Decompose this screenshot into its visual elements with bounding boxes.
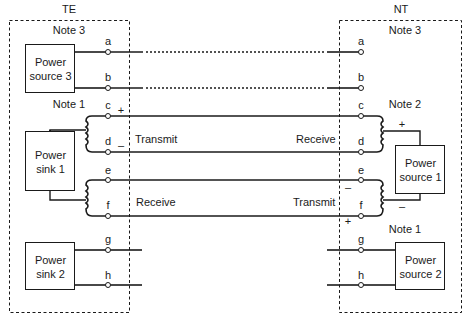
te-label-e: e <box>105 165 111 176</box>
te-title: TE <box>62 4 76 15</box>
nt-terminal-c <box>359 114 364 119</box>
te-terminal-d <box>106 150 111 155</box>
te-terminal-a <box>106 50 111 55</box>
nt-e-minus: – <box>345 182 351 193</box>
power-source-2-label: Power source 2 <box>396 243 445 290</box>
te-terminal-h <box>106 283 111 288</box>
nt-source1-minus: – <box>399 201 405 212</box>
power-sink-1-label: Power sink 1 <box>26 132 75 191</box>
te-note-1: Note 1 <box>53 99 85 110</box>
te-terminal-b <box>106 86 111 91</box>
te-label-a: a <box>105 36 111 47</box>
te-note-3: Note 3 <box>53 25 85 36</box>
nt-label-a: a <box>358 36 364 47</box>
nt-terminal-e <box>359 178 364 183</box>
te-terminal-c <box>106 114 111 119</box>
nt-title: NT <box>394 4 409 15</box>
nt-label-c: c <box>358 100 364 111</box>
te-label-d: d <box>105 136 111 147</box>
power-source-1-label: Power source 1 <box>396 146 445 194</box>
te-c-plus: + <box>118 105 124 116</box>
nt-terminal-h <box>359 283 364 288</box>
te-terminal-e <box>106 178 111 183</box>
power-source-3-label: Power source 3 <box>26 45 75 93</box>
nt-note-3: Note 3 <box>389 25 421 36</box>
te-label-g: g <box>105 234 111 245</box>
nt-receive-label: Receive <box>296 134 336 145</box>
nt-note-1: Note 1 <box>389 224 421 235</box>
te-label-c: c <box>105 100 111 111</box>
nt-note-2: Note 2 <box>389 99 421 110</box>
te-transformer-cd <box>86 116 106 152</box>
nt-label-f: f <box>359 200 362 211</box>
nt-terminal-a <box>359 50 364 55</box>
nt-terminal-b <box>359 86 364 91</box>
nt-label-h: h <box>358 270 364 281</box>
nt-terminal-g <box>359 248 364 253</box>
te-transmit-label: Transmit <box>135 134 177 145</box>
nt-transformer-ef <box>363 180 383 216</box>
te-receive-label: Receive <box>136 197 176 208</box>
nt-f-plus: + <box>345 216 351 227</box>
te-terminal-g <box>106 248 111 253</box>
nt-transformer-cd <box>363 116 383 152</box>
te-transformer-ef <box>86 180 106 216</box>
nt-label-d: d <box>358 136 364 147</box>
nt-source1-plus: + <box>399 119 405 130</box>
te-label-h: h <box>105 270 111 281</box>
nt-terminal-d <box>359 150 364 155</box>
power-sink-2-label: Power sink 2 <box>26 243 75 290</box>
nt-label-g: g <box>358 234 364 245</box>
nt-label-b: b <box>358 72 364 83</box>
te-terminal-f <box>106 214 111 219</box>
nt-transmit-label: Transmit <box>293 197 335 208</box>
te-label-b: b <box>105 72 111 83</box>
nt-label-e: e <box>358 165 364 176</box>
te-d-minus: – <box>118 140 124 151</box>
nt-terminal-f <box>359 214 364 219</box>
te-label-f: f <box>106 200 109 211</box>
